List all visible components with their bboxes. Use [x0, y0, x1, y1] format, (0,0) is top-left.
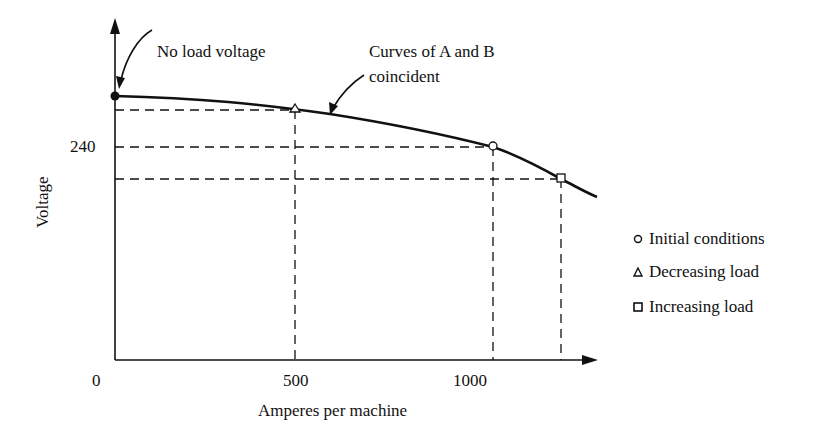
x-tick-500: 500: [283, 371, 309, 391]
circle-marker: [489, 142, 497, 150]
legend-label: Decreasing load: [649, 262, 759, 282]
legend-label: Initial conditions: [649, 229, 765, 249]
triangle-icon: [633, 267, 643, 277]
no-load-point: [111, 92, 120, 101]
curves-arrowhead-icon: [329, 102, 338, 115]
circle-icon: [633, 234, 643, 244]
curves-annotation-line2: coincident: [369, 67, 440, 87]
legend-item-increasing: Increasing load: [633, 297, 753, 317]
legend-label: Increasing load: [649, 297, 753, 317]
x-axis-arrow-icon: [582, 355, 598, 365]
x-tick-0: 0: [92, 371, 101, 391]
curves-arrow: [333, 75, 364, 108]
x-tick-1000: 1000: [453, 371, 487, 391]
y-axis-label: Voltage: [33, 176, 53, 228]
legend-item-decreasing: Decreasing load: [633, 262, 759, 282]
no-load-arrowhead-icon: [116, 76, 125, 89]
square-icon: [633, 302, 643, 312]
legend-item-initial: Initial conditions: [633, 229, 765, 249]
no-load-arrow: [121, 30, 152, 80]
no-load-annotation: No load voltage: [157, 42, 266, 62]
curves-annotation-line1: Curves of A and B: [369, 42, 495, 62]
square-marker: [557, 174, 565, 182]
chart-canvas: [0, 0, 826, 438]
y-axis-arrow-icon: [110, 18, 120, 34]
y-tick-240: 240: [70, 137, 96, 157]
x-axis-label: Amperes per machine: [258, 401, 407, 421]
